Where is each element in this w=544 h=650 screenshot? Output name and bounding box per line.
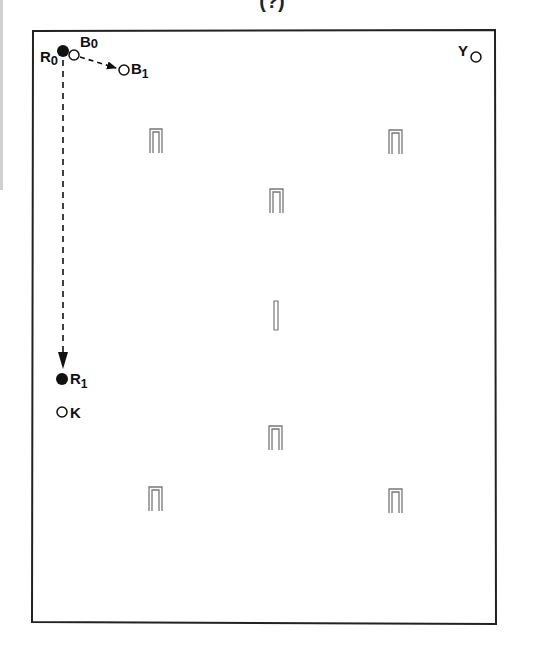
- label-r0: R0: [40, 48, 58, 68]
- staple-obstacle: [389, 489, 402, 513]
- arrowhead-down-icon: [58, 352, 68, 369]
- arrow-b0-b1: [80, 57, 116, 68]
- marker-k: [57, 407, 67, 417]
- marker-b0: [69, 50, 79, 60]
- staple-obstacle: [149, 487, 162, 511]
- staple-bar-obstacle: [274, 301, 278, 330]
- staple-obstacle: [270, 189, 283, 213]
- marker-r1: [56, 373, 68, 385]
- staple-obstacle: [389, 130, 402, 154]
- diagram-canvas: B0 R0 B1 R1 K Y: [0, 0, 544, 650]
- arena-frame: [32, 30, 496, 624]
- label-r1: R1: [70, 370, 88, 391]
- label-b1: B1: [131, 60, 149, 81]
- marker-r0: [57, 45, 69, 57]
- staple-obstacle: [150, 129, 162, 153]
- staple-obstacle: [269, 426, 282, 450]
- marker-b1: [119, 65, 129, 75]
- marker-y: [471, 52, 481, 62]
- label-y: Y: [458, 42, 468, 59]
- label-k: K: [70, 404, 81, 421]
- label-b0: B0: [80, 33, 98, 51]
